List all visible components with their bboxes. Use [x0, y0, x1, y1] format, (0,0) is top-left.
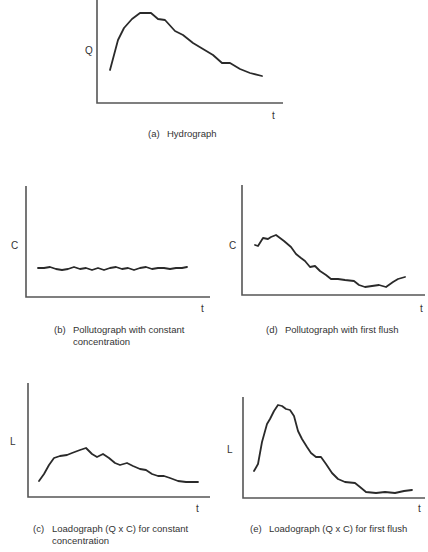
- axes-c: [28, 383, 210, 497]
- chart-c-loadograph-constant: [28, 383, 210, 497]
- caption-tag-c: (c): [33, 523, 52, 535]
- caption-b: (b)Pollutograph with constant concentrat…: [54, 324, 184, 348]
- curve-a: [110, 13, 262, 76]
- chart-b-pollutograph-constant: [26, 186, 210, 297]
- x-axis-label-b: t: [201, 303, 204, 315]
- caption-text-e: Loadograph (Q x C) for first flush: [269, 523, 407, 534]
- caption-text-c: Loadograph (Q x C) for constant: [52, 523, 188, 534]
- curve-d: [255, 235, 405, 287]
- caption-a: (a)Hydrograph: [148, 128, 217, 140]
- caption-c: (c)Loadograph (Q x C) for constant conce…: [33, 523, 188, 547]
- axes-e: [243, 397, 425, 498]
- chart-a-hydrograph: [97, 0, 283, 103]
- curve-c: [39, 448, 198, 482]
- x-axis-label-d: t: [420, 303, 423, 315]
- x-axis-label-e: t: [418, 503, 421, 515]
- y-axis-label-e: L: [227, 444, 233, 456]
- caption-text-a: Hydrograph: [167, 128, 217, 139]
- curve-b: [38, 267, 187, 270]
- chart-d-pollutograph-first-flush: [242, 185, 425, 295]
- y-axis-label-a: Q: [85, 45, 93, 57]
- axes-b: [26, 186, 210, 297]
- caption-tag-d: (d): [266, 324, 285, 336]
- curve-e: [254, 405, 412, 493]
- chart-e-loadograph-first-flush: [243, 397, 425, 498]
- caption-tag-e: (e): [250, 523, 269, 535]
- caption-text-b: Pollutograph with constant: [73, 324, 184, 335]
- figure-canvas: [0, 0, 428, 552]
- y-axis-label-c: L: [10, 436, 16, 448]
- caption-tag-a: (a): [148, 128, 167, 140]
- axes-a: [97, 0, 283, 103]
- caption-text-c-line2: concentration: [33, 535, 188, 547]
- caption-text-d: Pollutograph with first flush: [285, 324, 399, 335]
- caption-e: (e)Loadograph (Q x C) for first flush: [250, 523, 407, 535]
- y-axis-label-b: C: [11, 240, 18, 252]
- x-axis-label-c: t: [196, 503, 199, 515]
- caption-tag-b: (b): [54, 324, 73, 336]
- caption-text-b-line2: concentration: [54, 336, 184, 348]
- x-axis-label-a: t: [272, 110, 275, 122]
- y-axis-label-d: C: [229, 240, 236, 252]
- caption-d: (d)Pollutograph with first flush: [266, 324, 399, 336]
